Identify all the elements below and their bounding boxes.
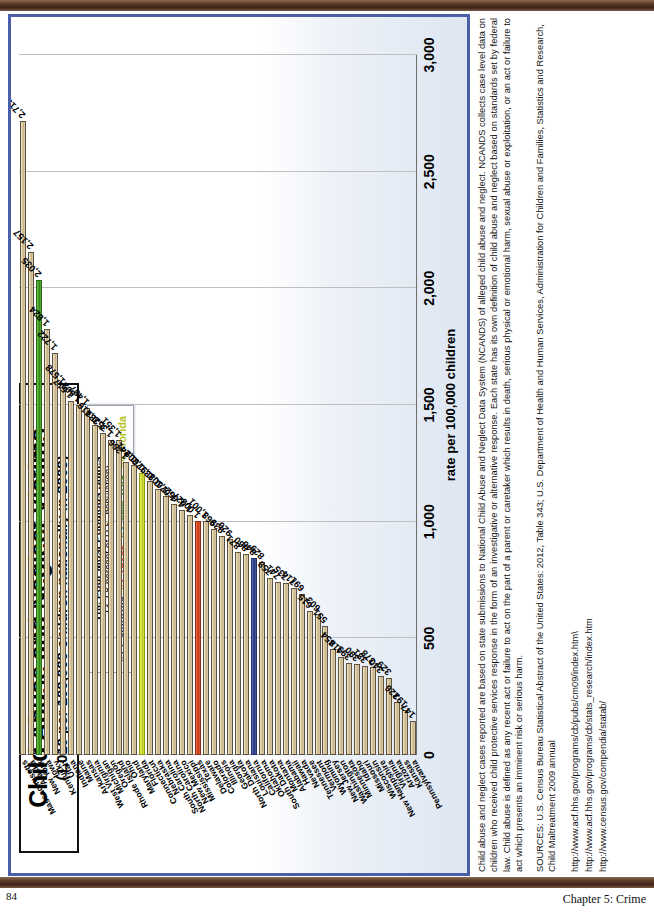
bar-row — [187, 55, 193, 755]
bar-row — [131, 55, 137, 755]
chapter-label: Chapter 5: Crime — [563, 892, 646, 907]
bar-texas — [195, 521, 201, 755]
bar-row — [108, 55, 114, 755]
bar-iowa — [44, 329, 50, 755]
bar-row — [211, 55, 217, 755]
bar-row — [52, 55, 58, 755]
bar-row — [179, 55, 185, 755]
bar-missouri — [362, 666, 368, 755]
bar-north-carolina — [171, 504, 177, 755]
bar-wisconsin — [370, 667, 376, 755]
notes-sources: SOURCES: U.S. Census Bureau Statistical … — [534, 18, 559, 872]
page-top-band — [0, 0, 654, 11]
bar-row — [259, 55, 265, 755]
tick-label: 500 — [421, 627, 437, 650]
source-url-3[interactable]: http://www.census.gov/compendia/statab/ — [596, 18, 610, 872]
bar-row — [219, 55, 225, 755]
bar-louisiana — [243, 554, 249, 755]
chart-baseline — [416, 55, 417, 755]
bar-rhode-island — [116, 440, 122, 755]
bar-washington — [338, 657, 344, 755]
bar-alabama — [283, 584, 289, 756]
bar-row — [291, 55, 297, 755]
notes-paragraph: Child abuse and neglect cases reported a… — [476, 18, 525, 872]
tick-label: 1,000 — [421, 504, 437, 539]
bar-south-dakota — [267, 578, 273, 755]
bar-row — [203, 55, 209, 755]
chart-bars: 2,719Massachusetts2,157Alaska2,035New Yo… — [19, 55, 417, 755]
chart-panel: Child Abuse and Neglect Victims (1,010 p… — [8, 14, 470, 876]
bar-south-carolina — [163, 496, 169, 755]
bar-row — [386, 55, 392, 755]
bar-new-jersey — [330, 649, 336, 755]
bar-maine — [76, 405, 82, 755]
bar-row — [283, 55, 289, 755]
bar-minnesota — [346, 663, 352, 755]
bar-row — [139, 55, 145, 755]
bar-oregon — [108, 440, 114, 755]
bar-georgia — [227, 539, 233, 755]
bar-row — [44, 55, 50, 755]
source-url-2[interactable]: http://www.acf.hhs.gov/programs/cb/stats… — [582, 18, 596, 872]
bar-row — [235, 55, 241, 755]
bar-indiana — [68, 401, 74, 755]
page-footer: 84 Chapter 5: Crime — [0, 890, 654, 916]
bar-nevada — [299, 594, 305, 755]
bar-row — [315, 55, 321, 755]
bar-row — [307, 55, 313, 755]
bar-massachusetts — [20, 121, 26, 755]
bar-alaska — [28, 252, 34, 755]
bar-nebraska — [155, 489, 161, 755]
bar-new-hampshire — [378, 676, 384, 755]
bar-row — [322, 55, 328, 755]
bar-michigan — [100, 433, 106, 755]
bar-row — [163, 55, 169, 755]
bar-row — [92, 55, 98, 755]
bar-tennessee — [307, 612, 313, 756]
tick-label: 2,500 — [421, 154, 437, 189]
bar-row — [100, 55, 106, 755]
bar-row — [60, 55, 66, 755]
bar-maryland — [131, 465, 137, 755]
bar-connecticut — [147, 481, 153, 755]
chart-rotated-stage: Child Abuse and Neglect Victims (1,010 p… — [11, 17, 467, 873]
bar-arkansas — [84, 408, 90, 755]
value-axis-title: rate per 100,000 children — [443, 55, 458, 755]
bar-row — [20, 55, 26, 755]
bar-idaho — [354, 664, 360, 755]
bar-row — [275, 55, 281, 755]
bar-row — [267, 55, 273, 755]
bar-row — [243, 55, 249, 755]
bar-row — [123, 55, 129, 755]
notes-rotated-stage: Child abuse and neglect cases reported a… — [474, 14, 654, 876]
bar-new-york — [36, 280, 42, 755]
bar-west-virginia — [92, 425, 98, 755]
bar-row — [394, 55, 400, 755]
bar-row — [171, 55, 177, 755]
bar-oklahoma — [259, 562, 265, 755]
bar-row — [36, 55, 42, 755]
bar-california — [251, 558, 257, 755]
bar-illinois — [219, 536, 225, 755]
bar-florida — [139, 473, 145, 755]
value-axis-ticks: 05001,0001,5002,0002,5003,000 — [421, 55, 443, 755]
bar-row — [370, 55, 376, 755]
bar-hawaii — [291, 588, 297, 755]
bar-row — [195, 55, 201, 755]
notes-column: Child abuse and neglect cases reported a… — [474, 14, 654, 876]
bar-ohio — [123, 462, 129, 755]
bar-new-mexico — [179, 510, 185, 755]
bar-row — [28, 55, 34, 755]
bar-montana — [275, 582, 281, 755]
bar-kentucky — [52, 353, 58, 755]
bar-mississippi — [187, 515, 193, 755]
page-bottom-band — [0, 877, 654, 888]
source-url-1[interactable]: http://www.acf.hhs.gov/programs/cb/pubs/… — [568, 18, 582, 872]
bar-row — [251, 55, 257, 755]
tick-label: 0 — [421, 751, 437, 759]
bar-row — [147, 55, 153, 755]
book-page: Child Abuse and Neglect Victims (1,010 p… — [0, 0, 654, 916]
bar-colorado — [211, 529, 217, 755]
tick-label: 3,000 — [421, 37, 437, 72]
tick-label: 2,000 — [421, 271, 437, 306]
